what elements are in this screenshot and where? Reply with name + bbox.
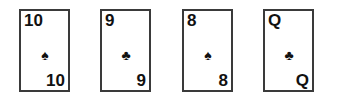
card-rank-top: 10	[24, 12, 43, 29]
card-8-of-spades[interactable]: 8 ♠ 8	[182, 9, 233, 92]
spade-icon: ♠	[35, 48, 55, 62]
card-rank-bottom: Q	[296, 72, 309, 89]
card-rank-top: Q	[268, 12, 281, 29]
card-rank-bottom: 8	[219, 72, 228, 89]
card-rank-bottom: 10	[46, 72, 65, 89]
spade-icon: ♠	[198, 48, 218, 62]
card-rank-top: 9	[105, 12, 114, 29]
club-icon: ♣	[116, 48, 136, 62]
card-10-of-spades[interactable]: 10 ♠ 10	[19, 9, 70, 92]
card-9-of-clubs[interactable]: 9 ♣ 9	[100, 9, 151, 92]
card-queen-of-clubs[interactable]: Q ♣ Q	[263, 9, 314, 92]
card-rank-bottom: 9	[137, 72, 146, 89]
club-icon: ♣	[279, 48, 299, 62]
card-rank-top: 8	[187, 12, 196, 29]
